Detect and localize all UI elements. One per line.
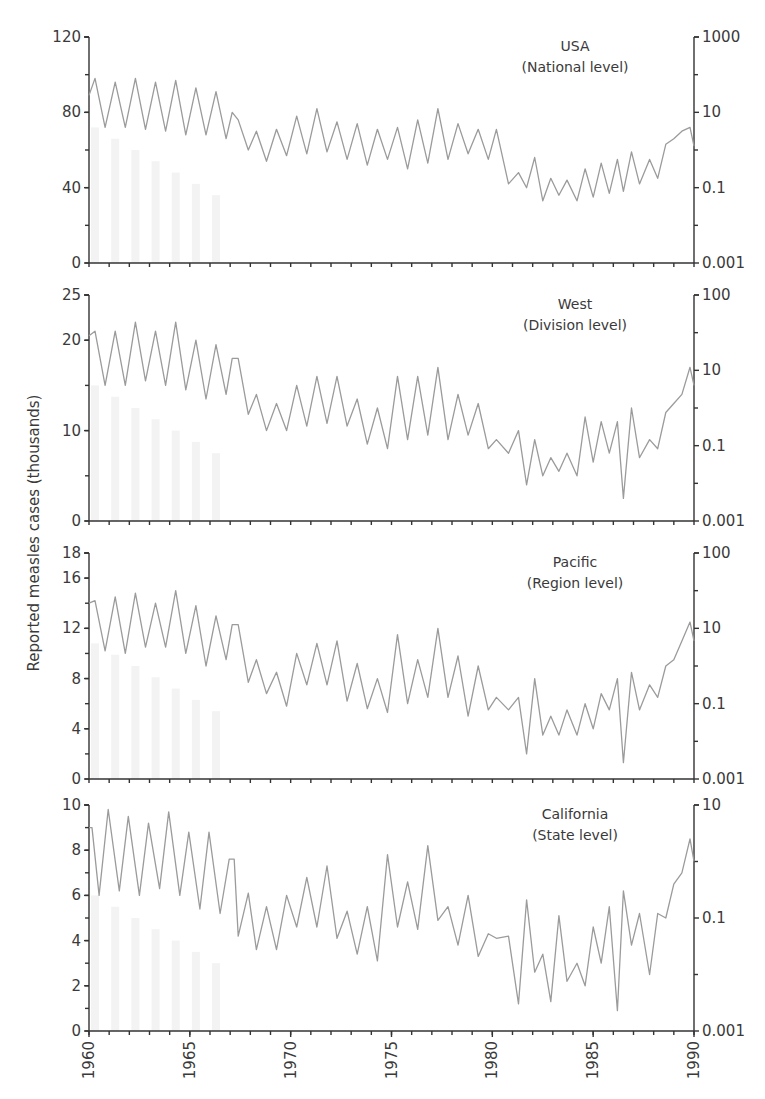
chart-panels: 040801200.0010.1101000USA(National level… <box>52 28 745 1040</box>
left-tick-label: 25 <box>62 286 81 304</box>
left-tick-label: 12 <box>62 619 81 637</box>
left-tick-label: 8 <box>71 670 81 688</box>
panel-california: 02468100.0010.110California(State level) <box>62 796 745 1040</box>
left-tick-label: 0 <box>71 770 81 788</box>
right-tick-label: 0.001 <box>702 512 745 530</box>
right-tick-label: 0.1 <box>702 695 726 713</box>
right-tick-label: 100 <box>702 544 731 562</box>
panel-title: USA <box>561 38 590 54</box>
x-tick-label: 1990 <box>685 1041 703 1079</box>
measles-chart: 040801200.0010.1101000USA(National level… <box>0 0 765 1099</box>
left-tick-label: 8 <box>71 841 81 859</box>
panel-west: 01020250.0010.110100West(Division level) <box>62 286 745 530</box>
series-line <box>89 591 694 763</box>
right-tick-label: 10 <box>702 361 721 379</box>
left-tick-label: 16 <box>62 569 81 587</box>
left-tick-label: 0 <box>71 254 81 272</box>
left-tick-label: 10 <box>62 796 81 814</box>
right-tick-label: 0.1 <box>702 909 726 927</box>
x-tick-label: 1985 <box>584 1041 602 1079</box>
x-tick-label: 1975 <box>383 1041 401 1079</box>
right-tick-label: 0.001 <box>702 770 745 788</box>
right-tick-label: 0.001 <box>702 1022 745 1040</box>
panel-pacific: 0481216180.0010.110100Pacific(Region lev… <box>62 544 745 788</box>
left-tick-label: 10 <box>62 422 81 440</box>
left-tick-label: 4 <box>71 720 81 738</box>
x-tick-label: 1965 <box>181 1041 199 1079</box>
background-ghost-bars <box>91 643 220 779</box>
right-tick-label: 0.1 <box>702 179 726 197</box>
left-tick-label: 20 <box>62 331 81 349</box>
left-tick-label: 4 <box>71 932 81 950</box>
panel-subtitle: (Region level) <box>527 575 624 591</box>
right-tick-label: 0.001 <box>702 254 745 272</box>
background-ghost-bars <box>91 895 220 1031</box>
left-tick-label: 18 <box>62 544 81 562</box>
left-tick-label: 6 <box>71 886 81 904</box>
panel-usa: 040801200.0010.1101000USA(National level… <box>52 28 745 272</box>
background-ghost-bars <box>91 127 220 263</box>
x-tick-label: 1960 <box>80 1041 98 1079</box>
panel-title: California <box>542 806 608 822</box>
right-tick-label: 10 <box>702 796 721 814</box>
panel-subtitle: (State level) <box>532 827 618 843</box>
right-tick-label: 10 <box>702 619 721 637</box>
right-tick-label: 10 <box>702 103 721 121</box>
left-tick-label: 0 <box>71 512 81 530</box>
right-tick-label: 0.1 <box>702 437 726 455</box>
series-line <box>89 322 694 498</box>
x-tick-label: 1970 <box>282 1041 300 1079</box>
right-tick-label: 1000 <box>702 28 740 46</box>
series-line <box>89 78 694 200</box>
panel-title: Pacific <box>553 554 598 570</box>
x-tick-label: 1980 <box>483 1041 501 1079</box>
background-ghost-bars <box>91 385 220 521</box>
left-tick-label: 120 <box>52 28 81 46</box>
left-tick-label: 80 <box>62 103 81 121</box>
panel-title: West <box>558 296 593 312</box>
x-axis-tick-labels: 1960196519701975198019851990 <box>80 1031 703 1079</box>
left-tick-label: 0 <box>71 1022 81 1040</box>
panel-subtitle: (Division level) <box>523 317 627 333</box>
left-tick-label: 40 <box>62 179 81 197</box>
left-tick-label: 2 <box>71 977 81 995</box>
panel-subtitle: (National level) <box>521 59 628 75</box>
y-axis-label: Reported measles cases (thousands) <box>25 395 43 672</box>
right-tick-label: 100 <box>702 286 731 304</box>
